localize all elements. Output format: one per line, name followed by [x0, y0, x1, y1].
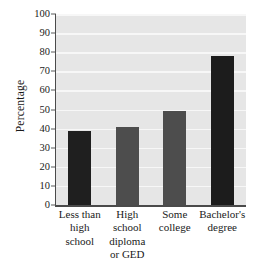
- y-axis-tick-labels: 0102030405060708090100: [26, 14, 50, 205]
- x-axis-category-label-line: school: [104, 221, 152, 234]
- x-axis-category-label-line: or GED: [104, 248, 152, 261]
- y-axis-tick-label: 0: [45, 200, 50, 211]
- x-axis-category-label-line: high: [56, 221, 104, 234]
- x-axis-line: [55, 205, 246, 207]
- x-axis-category-label: Somecollege: [151, 208, 199, 235]
- y-axis-title-text: Percentage: [14, 80, 26, 132]
- x-axis-category-label-line: diploma: [104, 235, 152, 248]
- y-axis-tick-label: 80: [40, 47, 51, 58]
- bar: [116, 127, 139, 205]
- x-axis-category-label-line: school: [56, 235, 104, 248]
- x-axis-category-label-line: Less than: [56, 208, 104, 221]
- bar-series: [56, 14, 246, 205]
- plot-area: [56, 14, 246, 205]
- y-axis-tick-label: 20: [40, 162, 51, 173]
- x-axis-category-label-line: High: [104, 208, 152, 221]
- y-axis-tick-label: 10: [40, 181, 51, 192]
- y-axis-tick-label: 90: [40, 28, 51, 39]
- y-axis-tick-label: 30: [40, 142, 51, 153]
- bar-chart-figure: Percentage 0102030405060708090100 Less t…: [0, 0, 263, 277]
- x-axis-category-label-line: Bachelor's: [199, 208, 247, 221]
- x-axis-category-label: Highschooldiplomaor GED: [104, 208, 152, 262]
- x-axis-category-label: Bachelor'sdegree: [199, 208, 247, 235]
- x-axis-category-labels: Less thanhighschoolHighschooldiplomaor G…: [56, 208, 246, 276]
- y-axis-tick-label: 70: [40, 66, 51, 77]
- x-axis-category-label-line: degree: [199, 221, 247, 234]
- y-axis-tick-label: 60: [40, 85, 51, 96]
- bar: [68, 131, 91, 205]
- x-axis-category-label: Less thanhighschool: [56, 208, 104, 248]
- x-axis-category-label-line: college: [151, 221, 199, 234]
- bar: [211, 56, 234, 205]
- bar: [163, 111, 186, 205]
- y-axis-tick-label: 100: [34, 9, 50, 20]
- x-axis-category-label-line: Some: [151, 208, 199, 221]
- y-axis-tick-label: 50: [40, 104, 51, 115]
- y-axis-tick-label: 40: [40, 123, 51, 134]
